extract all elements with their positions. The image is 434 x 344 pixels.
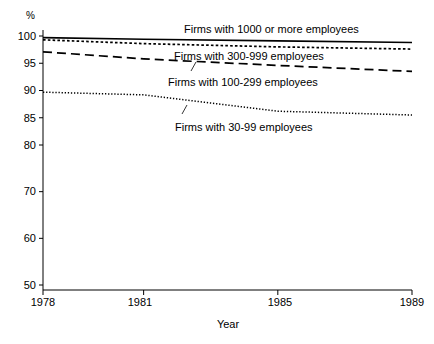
annotation-leader-lines: [182, 62, 196, 114]
y-tick-label-70: 70: [0, 186, 36, 197]
y-tick-label-50: 50: [0, 280, 36, 291]
x-axis-ticks: [43, 290, 412, 295]
x-tick-label-1981: 1981: [116, 297, 164, 308]
y-tick-label-80: 80: [0, 140, 36, 151]
series-label-100-299: Firms with 100-299 employees: [168, 77, 318, 88]
series-line-3: [43, 92, 412, 115]
x-tick-label-1989: 1989: [388, 297, 434, 308]
x-tick-label-1985: 1985: [256, 297, 304, 308]
x-tick-label-1978: 1978: [19, 297, 67, 308]
y-tick-label-95: 95: [0, 58, 36, 69]
y-tick-label-85: 85: [0, 113, 36, 124]
y-tick-label-90: 90: [0, 85, 36, 96]
chart-figure: % 100 95 90 85 80 70 60 50 1978 1981 198…: [0, 0, 434, 344]
y-tick-label-100: 100: [0, 31, 36, 42]
y-tick-label-60: 60: [0, 233, 36, 244]
series-label-300-999: Firms with 300-999 employees: [174, 51, 324, 62]
y-axis-unit-label: %: [26, 10, 35, 21]
series-label-1000-or-more: Firms with 1000 or more employees: [184, 24, 359, 35]
series-label-30-99: Firms with 30-99 employees: [175, 122, 313, 133]
y-axis-ticks: [39, 36, 43, 285]
x-axis-title: Year: [183, 319, 273, 330]
